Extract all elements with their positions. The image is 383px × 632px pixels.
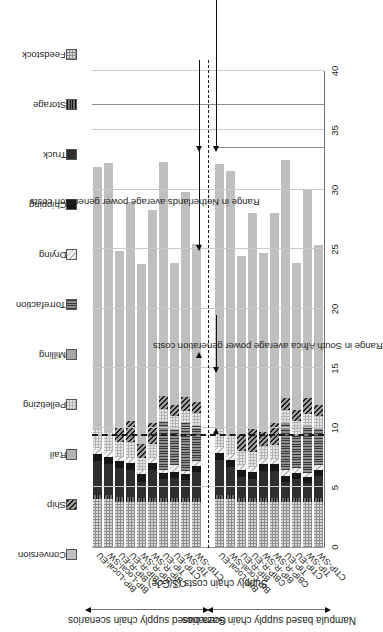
legend-item-torrefaction: Torrefaction xyxy=(16,280,80,330)
legend-item-feedstock: Feedstock xyxy=(22,30,80,80)
bar-segment-pelletizing xyxy=(281,410,290,423)
bar-segment-ship xyxy=(281,398,290,410)
bar-segment-chipping xyxy=(314,470,323,476)
bar-segment-feedstock xyxy=(237,502,246,547)
bar-segment-storage xyxy=(181,498,190,502)
bar-segment-chipping xyxy=(137,474,146,481)
bar-segment-storage xyxy=(314,498,323,502)
bar-segment-truck xyxy=(237,477,246,498)
bar-segment-drying xyxy=(226,454,235,460)
bar-segment-storage xyxy=(270,498,279,502)
bar-segment-truck xyxy=(215,460,224,495)
y-axis-tick-15: 15 xyxy=(329,363,340,374)
bar-ttp-eu-16 xyxy=(281,160,290,547)
legend-item-milling: Milling xyxy=(39,330,80,380)
bar-segment-conversion xyxy=(292,263,301,411)
arrow-sa-lower-b-head-left xyxy=(213,367,219,373)
bar-segment-truck xyxy=(115,468,124,497)
group-bracket-gaza-cap-top xyxy=(85,607,91,613)
bar-segment-conversion xyxy=(181,192,190,397)
bar-segment-pelletizing xyxy=(248,452,257,467)
bar-segment-storage xyxy=(126,497,135,502)
bar-segment-feedstock xyxy=(248,502,257,547)
bar-segment-storage xyxy=(137,498,146,502)
bar-segment-ship xyxy=(314,405,323,416)
bar-segment-pelletizing xyxy=(237,451,246,465)
bar-segment-truck xyxy=(226,467,235,494)
bar-segment-torrefaction xyxy=(281,423,290,469)
bar-segment-storage xyxy=(159,498,168,502)
arrow-nl-upper-b-head-left xyxy=(196,246,202,252)
bar-segment-storage xyxy=(226,495,235,500)
legend-label-truck: Truck xyxy=(43,150,66,160)
bar-segment-chipping xyxy=(303,477,312,483)
group-title-gaza: Gaza based supply chain scenarios xyxy=(91,615,203,626)
bar-segment-ship xyxy=(170,405,179,416)
bar-segment-feedstock xyxy=(93,499,102,547)
bar-segment-pelletizing xyxy=(126,442,135,457)
bar-segment-chipping xyxy=(159,473,168,479)
arrow-sa-lower-b xyxy=(216,315,217,372)
bar-segment-torrefaction xyxy=(303,426,312,474)
bar-btp-r-eu-12 xyxy=(237,256,246,547)
bar-segment-storage xyxy=(148,498,157,502)
sa-range-annotation: Range in South Africa average power gene… xyxy=(220,341,316,352)
bar-segment-ship xyxy=(126,421,135,442)
legend-swatch-storage xyxy=(66,100,77,111)
y-axis-tick-25: 25 xyxy=(329,244,340,255)
bar-segment-pelletizing xyxy=(303,414,312,426)
bar-segment-storage xyxy=(93,495,102,500)
bar-segment-chipping xyxy=(170,472,179,478)
bar-segment-drying xyxy=(314,465,323,470)
legend-item-storage: Storage xyxy=(33,80,80,130)
bar-btp-local-sw-1 xyxy=(104,163,113,547)
bar-segment-pelletizing xyxy=(270,445,279,459)
bar-segment-drying xyxy=(270,459,279,464)
y-axis-tick-10: 10 xyxy=(329,423,340,434)
legend-item-pelletizing: Pelletizing xyxy=(23,380,80,430)
arrow-sa-lower-a xyxy=(216,0,217,151)
bar-segment-truck xyxy=(93,461,102,494)
y-axis-tick-20: 20 xyxy=(329,304,340,315)
bar-segment-feedstock xyxy=(303,502,312,547)
bar-segment-feedstock xyxy=(281,502,290,547)
bar-segment-feedstock xyxy=(126,502,135,547)
bar-segment-feedstock xyxy=(170,502,179,547)
bar-segment-drying xyxy=(237,465,246,470)
bar-segment-truck xyxy=(104,464,113,495)
legend-label-conversion: Conversion xyxy=(18,550,66,560)
bar-segment-chipping xyxy=(215,453,224,460)
bar-segment-torrefaction xyxy=(192,426,201,462)
bar-segment-pelletizing xyxy=(115,442,124,456)
bar-segment-drying xyxy=(137,470,146,475)
bar-cttp-eu-7 xyxy=(170,263,179,547)
group-bracket-nampula xyxy=(213,609,325,610)
legend-label-drying: Drying xyxy=(39,250,66,260)
bar-segment-conversion xyxy=(148,210,157,423)
bar-segment-feedstock xyxy=(104,499,113,547)
bar-segment-drying xyxy=(126,458,135,463)
legend-item-conversion: Conversion xyxy=(18,530,80,580)
bar-cttp-sw-19 xyxy=(314,245,323,547)
arrow-nl-upper-b xyxy=(199,148,200,250)
bar-segment-truck xyxy=(192,472,201,498)
bar-segment-storage xyxy=(170,498,179,502)
bar-segment-ship xyxy=(159,396,168,409)
bar-segment-truck xyxy=(148,470,157,499)
legend-label-torrefaction: Torrefaction xyxy=(16,300,66,310)
bar-segment-conversion xyxy=(281,160,290,398)
bar-segment-feedstock xyxy=(192,502,201,547)
sa-range-annotation-label: Range in South Africa average power gene… xyxy=(153,341,383,352)
bar-cbtp-r-sw-5 xyxy=(148,210,157,547)
bar-segment-pelletizing xyxy=(181,411,190,423)
legend-swatch-feedstock xyxy=(66,50,77,61)
bar-segment-chipping xyxy=(192,466,201,472)
bar-segment-ship xyxy=(303,398,312,413)
y-axis-tick-5: 5 xyxy=(329,485,340,490)
bar-segment-pelletizing xyxy=(159,409,168,422)
bar-segment-chipping xyxy=(292,473,301,479)
legend-swatch-truck xyxy=(66,150,77,161)
bar-segment-truck xyxy=(170,478,179,498)
bar-segment-conversion xyxy=(126,202,135,421)
